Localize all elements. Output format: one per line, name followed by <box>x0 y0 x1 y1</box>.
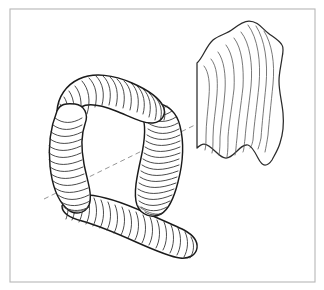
sheet-boundary <box>197 21 283 165</box>
striped-sheet <box>197 21 283 165</box>
technical-line-illustration <box>0 0 324 290</box>
figure-root: Toroidal tube and curved striped surface <box>0 0 324 290</box>
